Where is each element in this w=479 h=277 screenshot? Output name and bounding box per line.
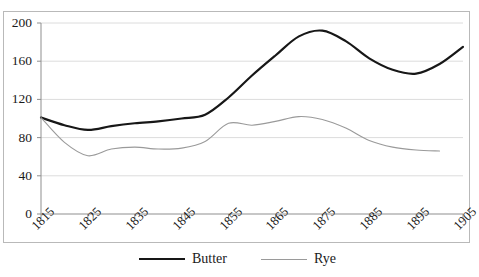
chart-frame: 04080120160200 1815182518351845185518651… [3,11,470,243]
legend-label: Butter [192,252,227,266]
legend-item-rye[interactable]: Rye [261,252,336,266]
y-tick-label: 120 [0,92,32,106]
y-tick-label: 160 [0,54,32,68]
chart-legend: ButterRye [0,248,475,270]
y-tick-label: 200 [0,16,32,30]
legend-label: Rye [314,252,336,266]
y-tick-label: 0 [0,207,32,221]
series-line-rye [41,117,440,156]
legend-line-icon [139,258,185,260]
legend-item-butter[interactable]: Butter [139,252,227,266]
series-line-butter [41,30,463,129]
y-tick-label: 40 [0,169,32,183]
y-tick-label: 80 [0,131,32,145]
legend-line-icon [261,259,307,260]
